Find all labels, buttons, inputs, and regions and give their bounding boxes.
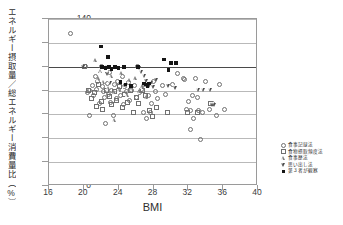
marker-inner	[117, 89, 119, 92]
data-point	[89, 96, 94, 101]
legend-item-0[interactable]: 食事記録法	[279, 142, 341, 149]
marker-inner	[96, 78, 98, 81]
data-point	[87, 113, 92, 118]
data-point	[188, 127, 193, 132]
marker-inner	[127, 80, 129, 83]
data-point	[169, 61, 173, 65]
data-point	[182, 77, 187, 82]
legend-marker	[279, 142, 288, 149]
data-point	[166, 84, 170, 88]
marker-inner	[130, 88, 132, 91]
marker-inner	[142, 74, 144, 77]
data-point	[155, 96, 160, 101]
data-point	[112, 118, 116, 122]
legend-marker	[279, 155, 288, 162]
data-point	[119, 71, 123, 75]
marker-inner	[93, 60, 95, 63]
marker-inner	[137, 91, 139, 94]
data-point	[111, 113, 116, 118]
marker-inner	[281, 162, 283, 165]
marker-inner	[106, 87, 108, 90]
data-point	[114, 98, 119, 103]
plot-area	[48, 18, 257, 185]
data-point	[163, 92, 168, 97]
data-point	[117, 88, 121, 92]
x-tick-mark	[187, 185, 188, 190]
marker-open-triangle	[281, 156, 285, 160]
marker-inner	[108, 81, 110, 84]
data-point	[125, 93, 129, 97]
data-point	[174, 61, 178, 65]
data-point	[208, 88, 212, 92]
data-point	[214, 113, 219, 118]
legend-label: 第３者が観察	[288, 168, 318, 175]
x-tick-mark	[83, 185, 84, 190]
gridline	[49, 19, 256, 20]
marker-inner	[208, 88, 210, 91]
data-point	[81, 65, 85, 69]
legend-label: 食事歴法	[288, 155, 308, 162]
data-point	[114, 81, 118, 85]
data-point	[173, 86, 177, 90]
data-point	[99, 99, 104, 104]
marker-inner	[212, 102, 214, 105]
data-point	[222, 107, 227, 112]
data-point	[125, 100, 130, 105]
data-point	[68, 31, 73, 36]
data-point	[103, 121, 108, 126]
marker-inner	[112, 92, 114, 95]
data-point	[198, 137, 203, 142]
data-point	[185, 110, 190, 115]
marker-inner	[144, 97, 146, 100]
data-point	[147, 108, 152, 113]
data-point	[207, 107, 212, 112]
data-point	[99, 45, 103, 49]
marker-inner	[196, 88, 198, 91]
data-point	[151, 85, 155, 89]
data-point	[141, 110, 146, 115]
data-point	[117, 66, 121, 70]
x-tick-mark	[48, 185, 49, 190]
data-point	[105, 72, 109, 76]
marker-inner	[154, 77, 156, 80]
data-point	[144, 116, 149, 121]
x-tick-mark	[118, 185, 119, 190]
data-point	[106, 55, 110, 59]
data-point	[86, 88, 91, 93]
data-point	[191, 116, 196, 121]
data-point	[153, 89, 158, 94]
data-point	[133, 76, 137, 80]
marker-inner	[125, 94, 127, 97]
marker-inner	[133, 78, 135, 81]
legend-item-2[interactable]: 食事歴法	[279, 155, 341, 162]
marker-open-down-triangle	[281, 163, 285, 167]
x-tick-mark	[222, 185, 223, 190]
data-point	[196, 88, 200, 92]
data-point	[119, 80, 123, 84]
marker-inner	[114, 82, 116, 85]
marker-inner	[119, 73, 121, 76]
data-point	[195, 110, 200, 115]
marker-inner	[81, 64, 83, 67]
data-point	[136, 101, 141, 106]
marker-inner	[99, 70, 101, 73]
legend-item-4[interactable]: 第３者が観察	[279, 168, 341, 175]
legend-marker	[279, 162, 288, 169]
data-point	[186, 99, 191, 104]
legend: 食事記録法食物摂取頻度法食事歴法思い出し法第３者が観察	[279, 142, 341, 175]
legend-marker	[279, 168, 288, 175]
marker-open-square	[281, 149, 286, 154]
data-point	[120, 105, 125, 110]
data-point	[201, 88, 205, 92]
data-point	[109, 74, 113, 78]
marker-inner	[201, 88, 203, 91]
data-point	[106, 86, 110, 90]
marker-inner	[106, 71, 108, 74]
marker-inner	[281, 157, 283, 160]
data-point	[124, 83, 128, 87]
marker-inner	[112, 119, 114, 122]
data-point	[203, 79, 208, 84]
data-point	[165, 110, 170, 115]
data-point	[96, 76, 100, 80]
data-point	[175, 71, 180, 76]
